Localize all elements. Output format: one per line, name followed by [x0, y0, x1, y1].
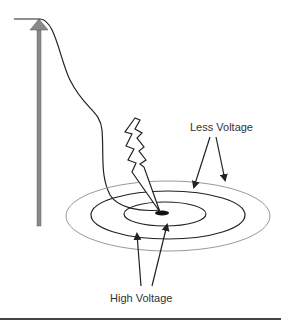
pole-shaft [37, 30, 41, 226]
less-voltage-arrow-outer [216, 137, 225, 180]
utility-pole [30, 19, 48, 226]
less-voltage-label: Less Voltage [190, 121, 253, 133]
middle-ring [91, 191, 245, 239]
high-voltage-label: High Voltage [110, 292, 172, 304]
high-voltage-arrow-right [152, 225, 167, 286]
lightning-bolt-icon [125, 118, 160, 212]
less-voltage-arrow-inner [194, 137, 210, 187]
strike-point [155, 211, 169, 216]
power-line-wire [14, 19, 160, 210]
voltage-rings [66, 181, 270, 251]
lightning-voltage-diagram: Less Voltage High Voltage [0, 0, 281, 321]
high-voltage-arrow-left [137, 234, 141, 286]
